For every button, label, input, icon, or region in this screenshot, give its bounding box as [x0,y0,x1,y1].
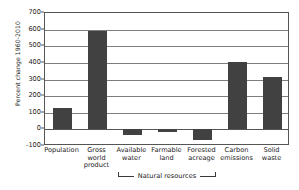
y-tick-label: 200 [0,91,41,99]
x-tick-label: Gross world product [79,147,114,170]
bar [88,31,108,129]
x-axis-labels: PopulationGross world productAvailable w… [44,147,289,173]
gridline [45,96,288,97]
x-tick-label: Available water [114,147,149,162]
bar [123,129,143,135]
y-tick-label: 700 [0,8,41,16]
bar [193,129,213,140]
y-tick-label: -100 [0,141,41,149]
x-tick-label: Forested acreage [184,147,219,162]
gridline [45,46,288,47]
plot-area [44,12,289,145]
y-tick-label: 600 [0,25,41,33]
y-tick-label: 100 [0,108,41,116]
x-tick-label: Population [44,147,79,155]
y-tick-label: 300 [0,75,41,83]
gridline [45,113,288,114]
gridline [45,63,288,64]
chart-figure: Percent change 1960-2010 700600500400300… [0,0,299,190]
group-bracket: Natural resources [118,172,216,184]
bar [228,62,248,129]
y-tick-label: 0 [0,124,41,132]
y-tick-label: 500 [0,41,41,49]
x-tick-label: Carbon emissions [219,147,254,162]
y-axis-ticks: 7006005004003002001000-100 [0,12,41,145]
y-tick-label: 400 [0,58,41,66]
bar [53,108,73,130]
x-tick-label: Farmable land [149,147,184,162]
gridline [45,80,288,81]
bar [263,77,283,129]
bar [158,129,178,131]
gridline [45,30,288,31]
group-bracket-label: Natural resources [118,172,216,180]
x-tick-label: Solid waste [254,147,289,162]
